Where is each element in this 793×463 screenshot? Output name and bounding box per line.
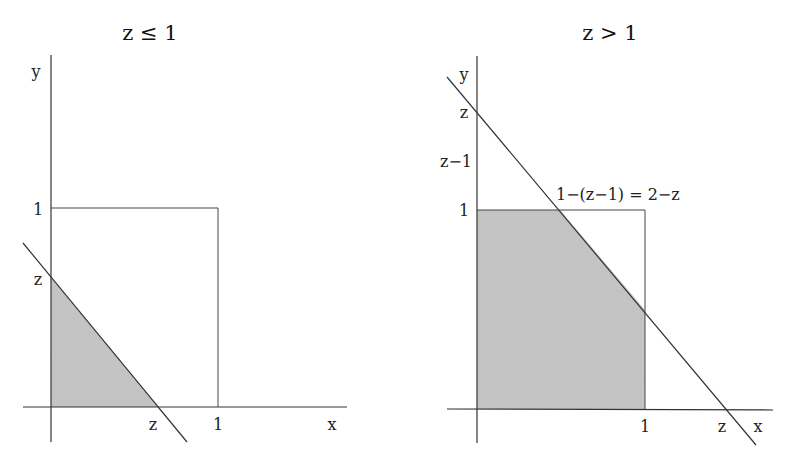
intersection-annotation: 1−(z−1) = 2−z bbox=[556, 185, 680, 204]
shaded-pentagon bbox=[477, 210, 645, 409]
x-tick-1: 1 bbox=[640, 417, 650, 436]
y-tick-1: 1 bbox=[459, 201, 469, 220]
x-axis-label: x bbox=[327, 415, 336, 434]
line-x-plus-y-eq-z bbox=[23, 243, 187, 442]
y-tick-z: z bbox=[460, 103, 468, 122]
x-axis-label: x bbox=[753, 417, 762, 436]
y-axis-label: y bbox=[30, 62, 40, 81]
x-tick-1: 1 bbox=[213, 415, 223, 434]
shaded-triangle bbox=[51, 278, 157, 407]
diagram-canvas: z ≤ 1 y 1 z z 1 x z > 1 y z z−1 1 1−(z−1… bbox=[0, 0, 793, 463]
y-tick-1: 1 bbox=[33, 200, 43, 219]
panel-title: z ≤ 1 bbox=[122, 21, 177, 45]
panel-z-gt-1: z > 1 y z z−1 1 1−(z−1) = 2−z 1 z x bbox=[440, 21, 773, 445]
x-axis bbox=[447, 409, 773, 410]
y-tick-z: z bbox=[34, 270, 42, 289]
panel-title: z > 1 bbox=[582, 21, 637, 45]
panel-z-le-1: z ≤ 1 y 1 z z 1 x bbox=[23, 21, 347, 442]
y-tick-z-minus-1: z−1 bbox=[440, 152, 472, 171]
x-tick-z: z bbox=[149, 415, 157, 434]
y-axis-label: y bbox=[458, 65, 468, 84]
x-tick-z: z bbox=[718, 417, 726, 436]
